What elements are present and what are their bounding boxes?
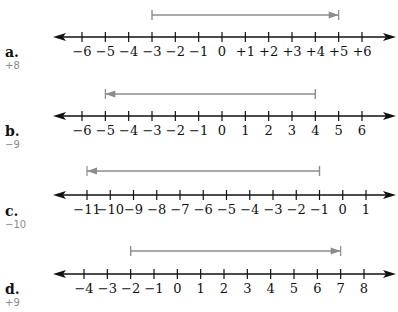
tick-label: +2 — [259, 44, 278, 59]
tick-label: 4 — [267, 281, 275, 296]
tick-label: −2 — [166, 44, 185, 59]
tick-label: −9 — [124, 202, 143, 217]
answer-value: −10 — [5, 219, 26, 230]
problem-c: c. −10 −11−10−9−8−7−6−5−4−3−2−101 — [0, 158, 398, 236]
number-line-b — [0, 79, 398, 157]
tick-label: −3 — [98, 281, 117, 296]
tick-label: −4 — [119, 44, 138, 59]
problem-a: a. +8 −6−5−4−3−2−10+1+2+3+4+5+6 — [0, 0, 398, 78]
tick-label: −4 — [74, 281, 93, 296]
tick-label: −5 — [96, 123, 115, 138]
tick-label: 2 — [220, 281, 228, 296]
tick-label: 3 — [288, 123, 296, 138]
number-line-c — [0, 158, 398, 236]
tick-label: −1 — [310, 202, 329, 217]
tick-label: +5 — [329, 44, 348, 59]
tick-label: 2 — [265, 123, 273, 138]
tick-label: −1 — [144, 281, 163, 296]
tick-label: 4 — [311, 123, 319, 138]
tick-label: −5 — [217, 202, 236, 217]
tick-label: 7 — [337, 281, 345, 296]
arrowhead-icon — [331, 248, 341, 255]
tick-label: 5 — [335, 123, 343, 138]
tick-label: +3 — [282, 44, 301, 59]
tick-label: −3 — [142, 44, 161, 59]
tick-label: −5 — [96, 44, 115, 59]
tick-label: 8 — [360, 281, 368, 296]
tick-label: −2 — [287, 202, 306, 217]
tick-label: 0 — [173, 281, 181, 296]
problem-letter: a. — [5, 44, 19, 60]
arrowhead-icon — [105, 91, 115, 98]
tick-label: +6 — [352, 44, 371, 59]
tick-label: −3 — [142, 123, 161, 138]
tick-label: −7 — [170, 202, 189, 217]
tick-label: +1 — [236, 44, 255, 59]
tick-label: 6 — [313, 281, 321, 296]
tick-label: −6 — [72, 44, 91, 59]
tick-label: 0 — [339, 202, 347, 217]
tick-label: 1 — [241, 123, 249, 138]
tick-label: +4 — [306, 44, 325, 59]
problem-b: b. −9 −6−5−4−3−2−10123456 — [0, 79, 398, 157]
tick-label: 1 — [362, 202, 370, 217]
tick-label: −4 — [240, 202, 259, 217]
answer-value: +8 — [5, 60, 20, 71]
tick-label: −2 — [166, 123, 185, 138]
number-line-d — [0, 237, 398, 312]
problem-letter: c. — [5, 203, 18, 219]
tick-label: 6 — [358, 123, 366, 138]
tick-label: −2 — [121, 281, 140, 296]
tick-label: −10 — [97, 202, 124, 217]
tick-label: −1 — [189, 44, 208, 59]
tick-label: −8 — [147, 202, 166, 217]
tick-label: −4 — [119, 123, 138, 138]
tick-label: −1 — [189, 123, 208, 138]
tick-label: 0 — [218, 123, 226, 138]
tick-label: 1 — [197, 281, 205, 296]
arrowhead-icon — [87, 168, 97, 175]
problem-letter: b. — [5, 123, 20, 139]
tick-label: −6 — [194, 202, 213, 217]
problem-letter: d. — [5, 281, 20, 297]
tick-label: 3 — [243, 281, 251, 296]
tick-label: −3 — [263, 202, 282, 217]
tick-label: 0 — [218, 44, 226, 59]
number-line-a — [0, 0, 398, 78]
tick-label: −6 — [72, 123, 91, 138]
problem-d: d. +9 −4−3−2−1012345678 — [0, 237, 398, 312]
arrowhead-icon — [329, 12, 339, 19]
tick-label: 5 — [290, 281, 298, 296]
answer-value: +9 — [5, 297, 20, 308]
answer-value: −9 — [5, 139, 20, 150]
